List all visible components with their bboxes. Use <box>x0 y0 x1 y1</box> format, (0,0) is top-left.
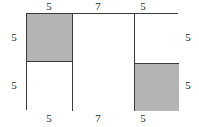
cell-bottom-left <box>27 61 72 111</box>
divider-vertical-left <box>72 14 73 111</box>
label-top-right-width: 5 <box>132 1 154 12</box>
label-top-left-width: 5 <box>38 1 60 12</box>
label-bottom-right-width: 5 <box>132 113 154 124</box>
cell-top-right <box>134 14 179 63</box>
cell-middle <box>72 14 134 111</box>
label-bottom-middle-width: 7 <box>87 113 109 124</box>
label-top-middle-width: 7 <box>87 1 109 12</box>
cell-top-left-shaded <box>27 14 72 61</box>
label-left-top-height: 5 <box>7 32 21 43</box>
cell-bottom-right-shaded <box>134 63 179 111</box>
divider-horizontal-left <box>27 61 72 62</box>
label-right-bottom-height: 5 <box>181 80 195 91</box>
outer-rectangle <box>26 13 178 110</box>
label-bottom-left-width: 5 <box>38 113 60 124</box>
label-right-top-height: 5 <box>181 32 195 43</box>
divider-horizontal-right <box>134 63 179 64</box>
geometry-figure: 5 7 5 5 5 5 5 5 7 5 <box>0 0 199 127</box>
label-left-bottom-height: 5 <box>7 80 21 91</box>
